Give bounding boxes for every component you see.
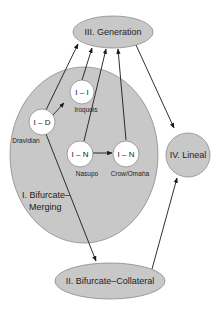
region-generation: III. Generation xyxy=(73,16,153,48)
bifurcate-collateral-label: II. Bifurcate–Collateral xyxy=(66,276,155,286)
kinship-terminology-diagram: I. Bifurcate– Merging III. Generation IV… xyxy=(0,0,223,310)
region-lineal: IV. Lineal xyxy=(166,133,210,177)
dravidian-caption: Dravidian xyxy=(12,137,40,144)
crow-omaha-node-label: I – N xyxy=(118,150,135,159)
nasupo-caption: Nasupo xyxy=(76,170,99,178)
dravidian-node-label: I – D xyxy=(34,118,51,127)
region-bifurcate-collateral: II. Bifurcate–Collateral xyxy=(55,263,165,299)
iroquois-node-label: I – I xyxy=(75,88,88,97)
lineal-label: IV. Lineal xyxy=(170,150,207,160)
nasupo-node-label: I – N xyxy=(72,150,89,159)
bifurcate-merging-label-line1: I. Bifurcate– xyxy=(22,190,70,200)
iroquois-caption: Iroquois xyxy=(74,106,98,114)
generation-label: III. Generation xyxy=(84,27,141,37)
bifurcate-merging-label-line2: Merging xyxy=(29,202,62,212)
crow-omaha-caption: Crow/Omaha xyxy=(111,170,150,177)
edge-bifurcate-collateral-to-lineal xyxy=(152,178,177,269)
